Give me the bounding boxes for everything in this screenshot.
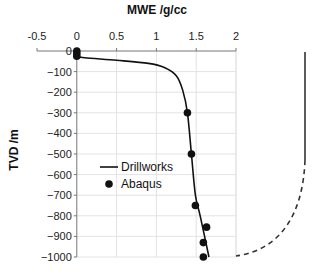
- legend-label-drillworks: Drillworks: [121, 160, 173, 174]
- legend-dot-icon: [105, 180, 113, 188]
- y-tick-label: −300: [47, 107, 72, 119]
- y-tick-label: −1000: [41, 251, 72, 263]
- y-tick-label: −600: [47, 169, 72, 181]
- abaqus-data-point: [73, 52, 81, 60]
- abaqus-data-point: [203, 223, 211, 231]
- abaqus-data-point: [200, 253, 208, 261]
- abaqus-data-point: [188, 150, 196, 158]
- y-tick-label: −500: [47, 148, 72, 160]
- x-tick-label: -0.5: [28, 30, 47, 42]
- x-tick-label: 1.5: [189, 30, 204, 42]
- gridlines: [77, 51, 236, 257]
- well-build-section-dashed: [236, 160, 305, 256]
- x-tick-label: 0: [74, 30, 80, 42]
- y-tick-label: −900: [47, 230, 72, 242]
- abaqus-data-point: [192, 202, 200, 210]
- y-axis-title: TVD /m: [7, 129, 21, 170]
- y-tick-labels: 0−100−200−300−400−500−600−700−800−900−10…: [41, 45, 72, 263]
- y-tick-label: −800: [47, 210, 72, 222]
- x-tick-label: 1: [153, 30, 159, 42]
- legend-label-abaqus: Abaqus: [121, 177, 162, 191]
- x-tick-label: 2: [233, 30, 239, 42]
- y-tick-label: −100: [47, 66, 72, 78]
- x-tick-label: 0.5: [109, 30, 124, 42]
- abaqus-data-point: [184, 109, 192, 117]
- well-schematic: [236, 52, 305, 256]
- y-tick-label: −200: [47, 86, 72, 98]
- y-tick-label: −400: [47, 127, 72, 139]
- x-tick-labels: -0.500.511.52: [28, 30, 240, 42]
- abaqus-data-point: [200, 239, 208, 247]
- mwe-vs-tvd-chart: -0.500.511.52 0−100−200−300−400−500−600−…: [0, 0, 320, 277]
- legend: Drillworks Abaqus: [100, 160, 173, 191]
- x-axis-title: MWE /g/cc: [127, 3, 187, 17]
- y-tick-label: 0: [66, 45, 72, 57]
- y-tick-label: −700: [47, 189, 72, 201]
